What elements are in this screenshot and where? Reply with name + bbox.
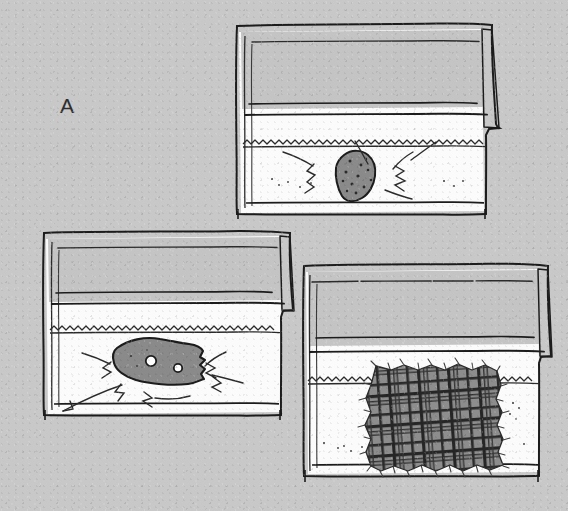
bag-inner-bottom [246, 202, 484, 203]
bag-gusset-left [244, 36, 245, 208]
bag-panel-sponge [236, 24, 499, 219]
panel-label-a: A [60, 94, 75, 117]
bag-gusset-left-inner [251, 44, 252, 206]
bag-inner-bottom [54, 403, 279, 404]
bag-panel-cheese [43, 231, 294, 420]
bag-gusset-left [309, 275, 310, 471]
cheese-hole [146, 356, 156, 366]
bag-gusset-left-inner [316, 284, 317, 468]
cheese-hole [174, 364, 182, 372]
figure-container: A [0, 0, 568, 511]
illustration-canvas: A [0, 0, 568, 511]
swatch-weave [360, 358, 512, 478]
bag-flap-overhang [482, 29, 499, 128]
bag-panel-fabric [303, 264, 552, 482]
bag-gusset-left [51, 242, 52, 410]
specimen-plaid-swatch [358, 358, 512, 478]
